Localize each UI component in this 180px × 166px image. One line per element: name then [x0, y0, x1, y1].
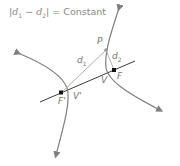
label-v-prime: V': [73, 91, 82, 101]
label-v: V: [101, 75, 107, 85]
label-d2: d2: [112, 51, 122, 63]
label-f-prime: F': [58, 96, 66, 106]
label-d1: d1: [77, 55, 87, 67]
label-f: F: [117, 71, 122, 81]
point-p: [104, 48, 108, 52]
focus-f: [112, 68, 116, 72]
label-p: P: [97, 36, 102, 46]
focus-f-prime: [59, 91, 63, 95]
hyperbola-diagram: [0, 0, 180, 166]
